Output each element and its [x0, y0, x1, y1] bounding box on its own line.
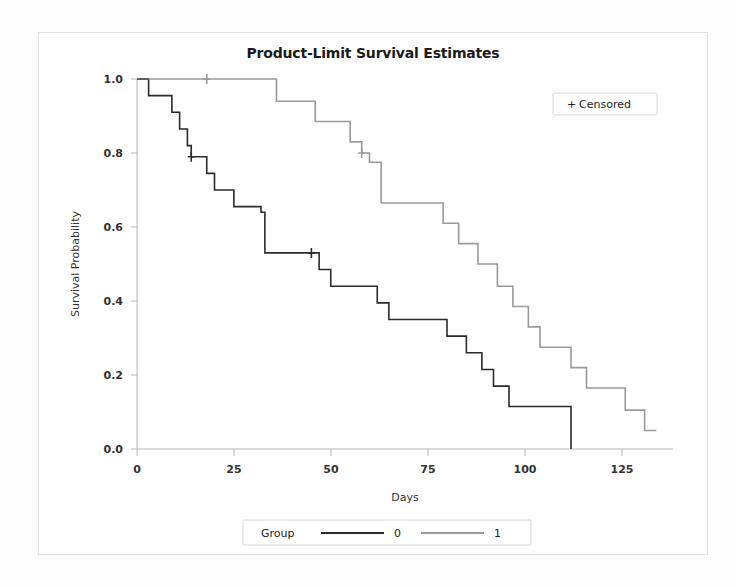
x-tick-label-100: 100	[514, 463, 537, 476]
x-tick-label-25: 25	[226, 463, 241, 476]
y-tick-label-0.0: 0.0	[104, 443, 124, 456]
axes-group: 1.0 0.8 0.6 0.4 0.2 0.0 0 25 50 75	[69, 73, 673, 504]
censor-mark-group-1-1	[358, 148, 365, 158]
group-legend-title: Group	[261, 527, 295, 540]
x-tick-label-0: 0	[133, 463, 141, 476]
chart-frame: Product-Limit Survival Estimates 1.0 0.8	[38, 32, 708, 555]
x-tick-label-50: 50	[323, 463, 339, 476]
x-tick-label-75: 75	[420, 463, 435, 476]
series-layer	[137, 79, 656, 449]
censored-legend-marker: +	[567, 98, 576, 111]
y-tick-label-1.0: 1.0	[104, 73, 124, 86]
y-axis-label: Survival Probability	[69, 211, 82, 317]
x-tick-label-125: 125	[611, 463, 634, 476]
censor-mark-group-0-0	[188, 152, 195, 162]
y-ticks	[131, 79, 137, 449]
group-legend-label-0: 0	[394, 527, 401, 540]
group-legend: Group 0 1	[243, 520, 531, 545]
survival-curve-group-0	[137, 79, 571, 449]
censored-legend: + Censored	[553, 93, 657, 115]
y-tick-label-0.4: 0.4	[104, 295, 124, 308]
x-ticks	[137, 449, 622, 456]
group-legend-label-1: 1	[494, 527, 501, 540]
x-axis-label: Days	[391, 491, 419, 504]
screenshot-canvas: Product-Limit Survival Estimates 1.0 0.8	[0, 0, 736, 586]
censor-mark-group-0-1	[308, 248, 315, 258]
y-tick-label-0.8: 0.8	[104, 147, 124, 160]
y-tick-label-0.2: 0.2	[104, 369, 124, 382]
censored-legend-label: Censored	[579, 98, 631, 111]
survival-curve-group-1	[149, 79, 657, 431]
y-tick-label-0.6: 0.6	[104, 221, 124, 234]
censor-mark-group-1-0	[203, 74, 210, 84]
survival-plot: 1.0 0.8 0.6 0.4 0.2 0.0 0 25 50 75	[39, 33, 707, 554]
